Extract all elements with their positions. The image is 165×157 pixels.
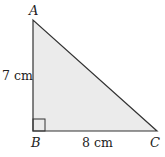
triangle-abc bbox=[33, 20, 157, 131]
triangle-svg: A B C 7 cm 8 cm bbox=[0, 0, 165, 157]
triangle-diagram: A B C 7 cm 8 cm bbox=[0, 0, 165, 157]
vertex-label-b: B bbox=[30, 135, 41, 150]
vertex-label-a: A bbox=[28, 3, 38, 18]
vertex-label-c: C bbox=[150, 135, 160, 150]
side-label-ab: 7 cm bbox=[2, 68, 33, 83]
side-label-bc: 8 cm bbox=[82, 135, 113, 150]
